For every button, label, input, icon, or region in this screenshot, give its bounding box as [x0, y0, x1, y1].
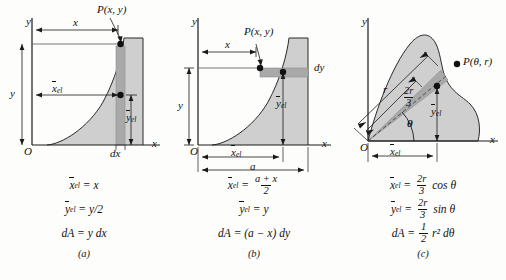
dim-a-label-b: a [250, 161, 256, 172]
dim-xel-arrow-left-b [202, 155, 208, 160]
equation-da-a: dA = y dx [0, 226, 168, 240]
dim-xel-label-a: xel [52, 83, 62, 95]
equation-yel-a: yel = y/2 [0, 202, 168, 216]
strip-width-label-a: dx [110, 148, 120, 159]
equation-xel-c: xel = 2r3 cos θ [340, 178, 506, 192]
strip-height-label-b: dy [314, 62, 324, 73]
equation-xel-a: xel = x [0, 178, 168, 192]
equations-b: xel = a + x2 yel = y dA = (a − x) dy [168, 178, 340, 240]
dim-y-label-b: y [178, 100, 183, 111]
equation-yel-b: yel = y [168, 202, 340, 216]
panel-caption-b: (b) [168, 248, 340, 259]
dim-xel-arrow-right-b [273, 155, 279, 160]
equations-a: xel = x yel = y/2 dA = y dx [0, 178, 168, 240]
angle-label-c: θ [407, 118, 413, 129]
dim-x-label-b: x [225, 39, 230, 50]
y-axis-label-a: y [26, 16, 31, 27]
centroid-elements-figure: y x O P(x, y) x y xel yel dx xel = x yel… [0, 0, 506, 280]
point-p-b [257, 65, 263, 71]
dim-a-arrow-right-b [298, 168, 304, 173]
panel-c: y x O P(θ, r) r 2r3 θ yel xel xel = 2r3 … [340, 0, 506, 280]
dim-x-label-a: x [73, 17, 78, 28]
x-axis-label-b: x [322, 138, 327, 149]
point-p-c [454, 61, 460, 67]
dim-yel-label-b: yel [276, 98, 286, 110]
panel-caption-a: (a) [0, 248, 168, 259]
dim-yel-label-c: yel [431, 106, 441, 118]
fraction-2r3-c: 2r3 [402, 86, 415, 108]
dim-y-label-a: y [10, 88, 15, 99]
area-region-b [212, 38, 308, 145]
point-label-a: P(x, y) [97, 4, 126, 15]
equation-da-b: dA = (a − x) dy [168, 226, 340, 240]
point-label-c: P(θ, r) [463, 56, 492, 67]
dim-xel-arrow-left-a [36, 93, 42, 98]
origin-label-b: O [190, 146, 198, 157]
y-axis-label-c: y [362, 16, 367, 27]
dim-r-ext-origin-c [354, 128, 368, 141]
x-axis-label-c: x [490, 134, 495, 145]
dim-xel-label-b: xel [231, 147, 241, 159]
point-label-b: P(x, y) [244, 26, 273, 37]
dim-y-arrow-top-b [187, 68, 192, 74]
equations-c: xel = 2r3 cos θ yel = 2r3 sin θ dA = 12 … [340, 178, 506, 240]
point-centroid-b [280, 69, 286, 75]
point-p-a [117, 41, 123, 47]
equation-yel-c: yel = 2r3 sin θ [340, 202, 506, 216]
fraction-xel-b: a + x2 [253, 174, 279, 196]
origin-label-a: O [24, 146, 32, 157]
dim-xel-arrow-left-c [372, 154, 378, 159]
panel-a: y x O P(x, y) x y xel yel dx xel = x yel… [0, 0, 168, 280]
point-centroid-a [117, 92, 123, 98]
dim-x-arrow-left-b [202, 50, 208, 55]
dim-xel-arrow-right-c [427, 154, 433, 159]
y-axis-label-b: y [192, 16, 197, 27]
radius-label-c: r [383, 84, 387, 95]
fraction-yel-c: 2r3 [416, 198, 429, 220]
dim-x-arrow-left-a [36, 28, 42, 33]
dim-a-arrow-left-b [202, 168, 208, 173]
equation-da-c: dA = 12 r² dθ [340, 226, 506, 240]
dim-xel-label-c: xel [390, 146, 400, 158]
two-r-over-three-label-c: 2r3 [401, 86, 416, 108]
equation-xel-b: xel = a + x2 [168, 178, 340, 192]
origin-label-c: O [360, 142, 368, 153]
fraction-xel-c: 2r3 [415, 174, 428, 196]
panel-b: y x O P(x, y) x y yel xel a dy xel = a +… [168, 0, 340, 280]
point-centroid-c [434, 83, 440, 89]
dim-yel-label-a: yel [126, 112, 136, 124]
x-axis-label-a: x [152, 138, 157, 149]
fraction-da-c: 12 [419, 222, 428, 244]
dim-x-arrow-right-b [250, 50, 256, 55]
panel-caption-c: (c) [340, 248, 506, 259]
dim-y-arrow-top-a [20, 44, 25, 50]
